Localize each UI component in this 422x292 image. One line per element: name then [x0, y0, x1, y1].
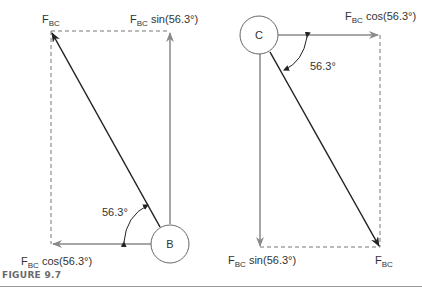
vertical-component-label-right: FBC sin(56.3°) [228, 254, 296, 269]
horizontal-component-label-right: FBC cos(56.3°) [345, 10, 416, 25]
left-diagram: B 56.3° FBC FBC sin(56.3°) FBC cos(56.3°… [21, 13, 198, 270]
node-b-label: B [166, 238, 173, 250]
figure-caption: FIGURE 9.7 [2, 270, 61, 280]
vertical-component-label-left: FBC sin(56.3°) [130, 13, 198, 28]
force-diagram: B 56.3° FBC FBC sin(56.3°) FBC cos(56.3°… [0, 0, 422, 292]
caption-rule [0, 286, 422, 287]
right-diagram: C 56.3° FBC cos(56.3°) FBC sin(56.3°) FB… [228, 10, 416, 269]
angle-label-right: 56.3° [310, 60, 336, 72]
angle-arc [284, 37, 307, 70]
node-c-label: C [255, 29, 263, 41]
angle-label-left: 56.3° [102, 206, 128, 218]
resultant-label-right: FBC [375, 254, 393, 269]
resultant-label-left: FBC [42, 13, 60, 28]
horizontal-component-label-left: FBC cos(56.3°) [21, 255, 92, 270]
resultant-arrow [52, 33, 160, 227]
resultant-arrow [270, 52, 379, 246]
